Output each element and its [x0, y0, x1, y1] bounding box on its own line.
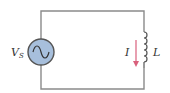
bottom-wire	[41, 65, 144, 89]
circuit-diagram: VS L I	[0, 0, 170, 93]
current-label: I	[124, 46, 130, 59]
inductor-icon	[144, 32, 147, 68]
inductor-label: L	[152, 46, 160, 59]
top-wire	[41, 11, 144, 39]
current-arrow-icon	[133, 40, 139, 67]
source-label: VS	[11, 46, 24, 60]
ac-source-icon	[28, 39, 54, 65]
